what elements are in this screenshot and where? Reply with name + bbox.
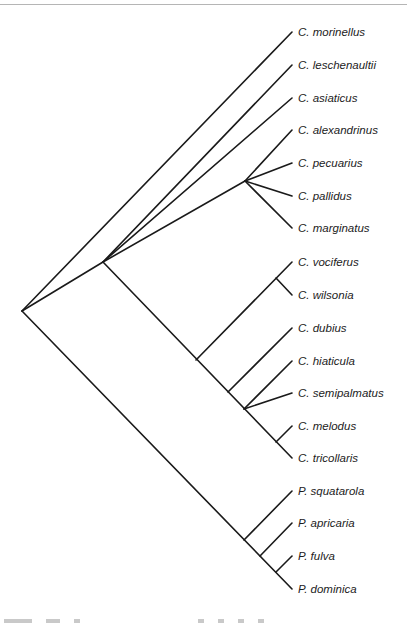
leaf-label: C. marginatus [298,221,370,235]
leaf-label: C. leschenaultii [298,58,376,72]
tree-branch [260,523,292,556]
tree-branch [22,311,292,589]
tree-branch [276,556,292,572]
leaf-label: C. tricollaris [298,451,358,465]
tree-branch [228,328,292,392]
tree-branch [22,32,292,311]
tree-branch [103,98,292,262]
leaf-label: C. morinellus [298,25,365,39]
tree-branches [22,32,292,589]
leaf-label: C. asiaticus [298,91,357,105]
leaf-label: C. vociferus [298,255,359,269]
tree-branch [245,163,292,181]
leaf-label: P. fulva [298,549,335,563]
leaf-label: P. apricaria [298,516,355,530]
leaf-label: C. semipalmatus [298,386,384,400]
tree-branch [276,426,292,442]
tree-branch [103,181,245,262]
leaf-label: C. alexandrinus [298,123,378,137]
leaf-label: C. pallidus [298,189,352,203]
leaf-label: P. dominica [298,582,357,596]
figure-caption-clipped [4,614,404,623]
caption-illegible-fragments [4,614,404,623]
tree-branch [103,65,292,262]
tree-branch [276,278,292,295]
leaf-label: C. melodus [298,419,356,433]
leaf-label: C. hiaticula [298,354,355,368]
tree-branch [245,130,292,181]
leaf-label: C. dubius [298,321,347,335]
tree-branch [244,491,292,540]
leaf-label: C. wilsonia [298,288,354,302]
leaf-label: P. squatarola [298,484,364,498]
leaf-label: C. pecuarius [298,156,363,170]
tree-branch [196,262,292,360]
